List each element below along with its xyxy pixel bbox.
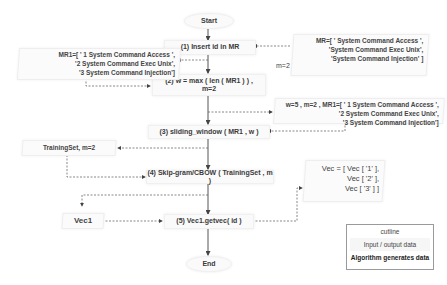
mr-input-data: MR=[ ' System Command Access ', 'System … [291,34,430,76]
legend-input-output: Input / output data [350,238,430,251]
step4-label: (4) Skip-gram/CBOW ( TrainingSet , m ) [147,169,273,186]
vec-line-2: Vec [ '2' ], [309,174,379,184]
mr-line-2: 'System Command Exec Unix', [297,46,423,55]
window-line-3: '3 System Command Injection'] [279,119,439,128]
vec1-label: Vec1 [63,214,103,227]
mr-line-3: 'System Command Injection' ] [297,55,423,64]
window-line-1: w=5 , m=2 , MR1=[ ' 1 System Command Acc… [279,101,439,110]
step4-skipgram-cbow: (4) Skip-gram/CBOW ( TrainingSet , m ) [146,170,274,184]
mr1-data: MR1=[ ' 1 System Command Access ', '2 Sy… [17,48,181,80]
step3-sliding-window: (3) sliding_window ( MR1 , w ) [148,125,270,139]
start-label: Start [201,17,217,25]
mr-m-value: m=2 [276,62,290,69]
step5-getvec: (5) Vec1.getvec( id ) [164,214,254,229]
step3-label: (3) sliding_window ( MR1 , w ) [159,128,258,136]
mr1-line-1: MR1=[ ' 1 System Command Access ', [23,51,175,60]
training-set-label: TrainingSet, m=2 [23,141,115,153]
window-params-data: w=5 , m=2 , MR1=[ ' 1 System Command Acc… [273,98,445,124]
step5-label: (5) Vec1.getvec( id ) [176,217,241,225]
vec-line-3: Vec [ '3' ] ] [309,184,379,194]
legend-algorithm: Algorithm generates data [347,251,433,264]
mr-line-1: MR=[ ' System Command Access ', [297,37,423,46]
mr1-line-3: '3 System Command Injection'] [23,69,175,78]
vec-output-data: Vec = [ Vec [ '1' ], Vec [ '2' ], Vec [ … [303,160,386,202]
vec-line-1: Vec = [ Vec [ '1' ], [309,164,379,174]
step2-label-line2: m=2 [202,85,216,93]
training-set-data: TrainingSet, m=2 [21,140,116,156]
vec1-data: Vec1 [61,213,104,229]
legend-title: cutline [347,225,433,238]
step1-label: (1) Insert id in MR [181,43,240,51]
end-node: End [186,256,232,272]
start-node: Start [184,13,234,29]
window-line-2: '2 System Command Exec Unix', [279,110,439,119]
end-label: End [202,260,215,268]
legend-box: cutline Input / output data Algorithm ge… [346,224,434,270]
mr1-line-2: '2 System Command Exec Unix', [23,60,175,69]
